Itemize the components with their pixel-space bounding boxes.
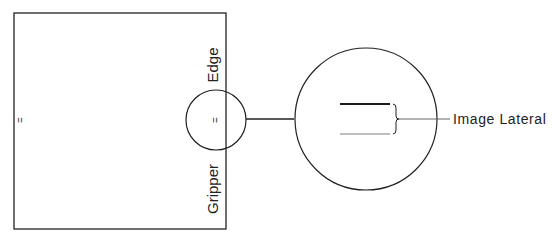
sheet-left-mark: = bbox=[15, 117, 26, 123]
image-lateral-label: Image Lateral bbox=[453, 111, 546, 127]
sheet-center-mark: = bbox=[210, 117, 221, 123]
diagram-canvas: = Gripper Edge = Image Lateral bbox=[0, 0, 552, 237]
lateral-bracket bbox=[393, 104, 399, 134]
gripper-label: Gripper bbox=[204, 164, 221, 214]
paper-sheet bbox=[14, 13, 226, 229]
edge-label: Edge bbox=[204, 47, 221, 82]
